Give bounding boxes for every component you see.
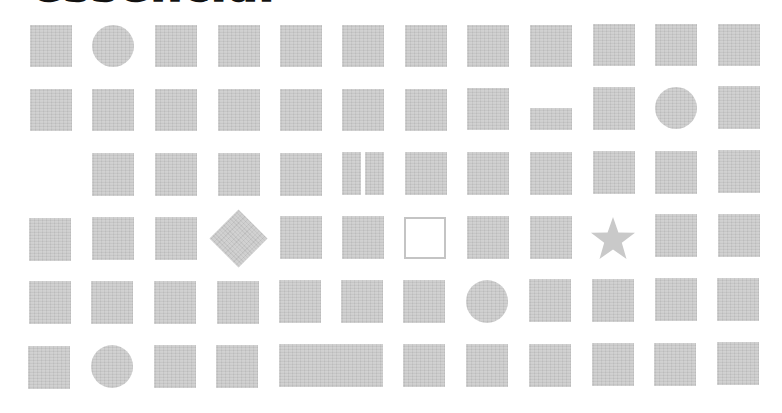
circle-shape xyxy=(91,345,133,388)
outline-square-shape xyxy=(404,217,446,259)
square-shape xyxy=(28,346,70,389)
square-shape xyxy=(530,152,572,195)
square-shape xyxy=(91,281,133,324)
square-shape xyxy=(280,153,322,196)
square-shape xyxy=(655,278,697,321)
square-shape xyxy=(218,153,260,196)
split-bars-shape xyxy=(342,152,384,195)
square-shape xyxy=(655,24,697,66)
square-shape xyxy=(530,25,572,67)
square-shape xyxy=(655,214,697,257)
square-shape xyxy=(405,152,447,195)
square-shape xyxy=(529,344,571,387)
square-shape xyxy=(155,25,197,67)
square-shape xyxy=(218,25,260,67)
diamond-shape xyxy=(210,210,268,268)
square-shape xyxy=(403,344,445,387)
shape-grid xyxy=(0,0,782,413)
square-shape xyxy=(529,279,571,322)
square-shape xyxy=(467,25,509,67)
star-icon xyxy=(590,216,636,261)
square-shape xyxy=(593,24,635,66)
square-shape xyxy=(717,278,759,321)
square-shape xyxy=(593,87,635,130)
square-shape xyxy=(530,216,572,259)
circle-shape xyxy=(466,280,508,323)
square-shape xyxy=(405,89,447,131)
square-shape xyxy=(216,345,258,388)
split-bar-right xyxy=(365,152,384,195)
square-shape xyxy=(403,280,445,323)
square-shape xyxy=(466,344,508,387)
square-shape xyxy=(30,25,72,67)
square-shape xyxy=(718,214,760,257)
square-shape xyxy=(342,216,384,259)
square-shape xyxy=(279,280,321,323)
square-shape xyxy=(155,89,197,131)
circle-shape xyxy=(92,25,134,67)
square-shape xyxy=(280,25,322,67)
square-shape xyxy=(655,151,697,194)
square-shape xyxy=(218,89,260,131)
square-shape xyxy=(154,345,196,388)
square-shape xyxy=(405,25,447,67)
circle-shape xyxy=(655,87,697,129)
square-shape xyxy=(342,25,384,67)
square-shape xyxy=(718,86,760,129)
square-shape xyxy=(29,281,71,324)
square-shape xyxy=(92,217,134,260)
square-shape xyxy=(593,151,635,194)
square-shape xyxy=(718,150,760,193)
square-shape xyxy=(154,281,196,324)
wide-rect-shape xyxy=(279,344,383,387)
square-shape xyxy=(155,217,197,260)
square-shape xyxy=(467,152,509,195)
square-shape xyxy=(467,216,509,259)
square-shape xyxy=(717,342,759,385)
square-shape xyxy=(92,153,134,196)
square-shape xyxy=(592,343,634,386)
square-shape xyxy=(592,279,634,322)
square-shape xyxy=(341,280,383,323)
split-bar-left xyxy=(342,152,361,195)
star-shape xyxy=(590,216,636,261)
square-shape xyxy=(280,89,322,131)
square-shape xyxy=(654,343,696,386)
square-shape xyxy=(29,218,71,261)
square-shape xyxy=(217,281,259,324)
square-shape xyxy=(92,89,134,131)
dash-shape xyxy=(530,108,572,130)
square-shape xyxy=(467,88,509,130)
square-shape xyxy=(342,89,384,131)
square-shape xyxy=(280,216,322,259)
square-shape xyxy=(718,24,760,66)
square-shape xyxy=(30,89,72,131)
square-shape xyxy=(155,153,197,196)
